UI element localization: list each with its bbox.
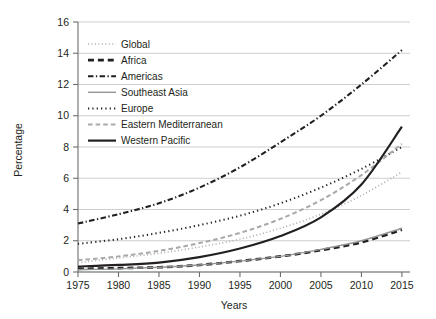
legend-label-africa: Africa [121, 55, 147, 66]
y-tick-label: 8 [63, 141, 69, 153]
legend-label-europe: Europe [121, 103, 154, 114]
chart-figure: 0246810121416 19751980198519901995200020… [0, 0, 436, 319]
x-tick-label: 1995 [228, 279, 252, 291]
x-tick-label: 2015 [390, 279, 414, 291]
y-tick-label: 16 [57, 16, 69, 28]
x-tick-label: 2000 [269, 279, 293, 291]
y-axis-ticks: 0246810121416 [57, 16, 78, 278]
y-tick-label: 12 [57, 78, 69, 90]
data-series-group [78, 50, 402, 270]
x-tick-label: 2010 [350, 279, 374, 291]
x-tick-label: 1985 [147, 279, 171, 291]
legend-label-southeast-asia: Southeast Asia [121, 87, 188, 98]
legend: GlobalAfricaAmericasSoutheast AsiaEurope… [88, 39, 223, 147]
series-line-western-pacific [78, 127, 402, 267]
x-tick-label: 1975 [66, 279, 90, 291]
x-tick-label: 1980 [107, 279, 131, 291]
series-line-europe [78, 147, 402, 244]
line-chart: 0246810121416 19751980198519901995200020… [0, 0, 436, 319]
y-tick-label: 14 [57, 47, 69, 59]
y-tick-label: 4 [63, 203, 69, 215]
legend-label-americas: Americas [121, 71, 163, 82]
x-axis-title: Years [221, 299, 247, 311]
y-tick-label: 2 [63, 234, 69, 246]
x-tick-label: 1990 [188, 279, 212, 291]
y-tick-label: 0 [63, 266, 69, 278]
legend-label-eastern-mediterranean: Eastern Mediterranean [121, 119, 223, 130]
y-axis-title: Percentage [12, 123, 24, 177]
x-tick-label: 2005 [309, 279, 333, 291]
y-tick-label: 10 [57, 109, 69, 121]
x-axis-ticks: 197519801985199019952000200520102015 [66, 272, 413, 291]
y-tick-label: 6 [63, 172, 69, 184]
legend-label-global: Global [121, 39, 150, 50]
legend-label-western-pacific: Western Pacific [121, 135, 190, 146]
